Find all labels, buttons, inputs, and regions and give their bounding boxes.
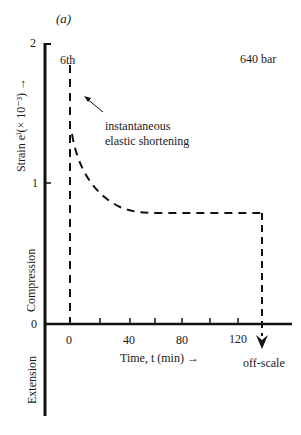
y-tick-label-2: 2 <box>30 37 36 49</box>
off-scale-label: off-scale <box>243 357 285 369</box>
compression-label: Compression <box>25 249 37 312</box>
x-tick-label-0: 0 <box>66 334 72 346</box>
cycle-label: 6th <box>60 54 75 66</box>
y-tick-label-0: 0 <box>31 318 37 330</box>
elastic-label-line2: elastic shortening <box>105 135 189 147</box>
x-tick-label-40: 40 <box>123 334 135 346</box>
x-axis-label: Time, t (min) → <box>120 352 199 364</box>
elastic-label-line1: instantaneous <box>105 120 170 132</box>
pressure-label: 640 bar <box>240 53 276 65</box>
y-axis-label: Strain eⁱ(× 10⁻³) → <box>15 78 27 172</box>
x-tick-label-80: 80 <box>176 334 188 346</box>
x-tick-label-120: 120 <box>229 333 247 345</box>
extension-label: Extension <box>26 356 38 404</box>
off-scale-arrow-icon <box>256 335 268 349</box>
panel-label: (a) <box>56 12 71 25</box>
y-tick-label-1: 1 <box>32 177 38 189</box>
